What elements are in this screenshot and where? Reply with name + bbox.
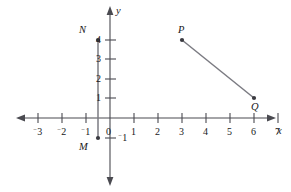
y-axis-label: y — [116, 6, 121, 17]
coordinate-plane-figure: ⁻3 ⁻2 ⁻1 0 1 2 3 4 5 6 7 4 3 2 1 ⁻1 x y … — [0, 0, 291, 192]
origin-label: 0 — [106, 127, 111, 137]
y-tick-label--1: ⁻1 — [118, 133, 127, 143]
x-tick-label-3: 3 — [179, 127, 184, 137]
plot-canvas — [0, 0, 291, 192]
x-axis-label: x — [277, 126, 282, 137]
x-tick-label--3: ⁻3 — [33, 127, 42, 137]
segment-pq — [180, 38, 256, 100]
point-label-m: M — [79, 142, 88, 153]
x-tick-label-5: 5 — [227, 127, 232, 137]
x-axis — [16, 115, 276, 122]
x-tick-label--1: ⁻1 — [81, 127, 90, 137]
point-label-q: Q — [251, 102, 259, 113]
x-tick-label--2: ⁻2 — [57, 127, 66, 137]
y-tick-label-1: 1 — [96, 93, 101, 103]
y-tick-label-4: 4 — [96, 35, 101, 45]
y-tick-label-3: 3 — [96, 54, 101, 64]
y-axis — [107, 6, 114, 186]
point-label-n: N — [79, 25, 86, 36]
x-tick-label-6: 6 — [251, 127, 256, 137]
x-tick-label-1: 1 — [131, 127, 136, 137]
y-tick-label-2: 2 — [96, 74, 101, 84]
point-label-p: P — [178, 25, 184, 36]
x-tick-label-2: 2 — [155, 127, 160, 137]
x-tick-label-4: 4 — [203, 127, 208, 137]
